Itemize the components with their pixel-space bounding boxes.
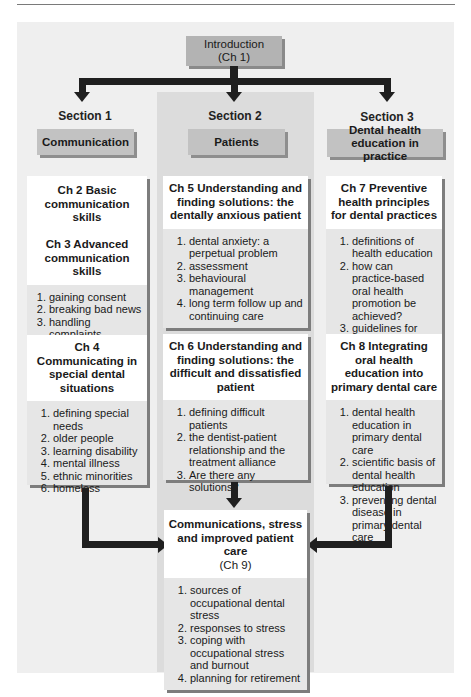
arrow-down-icon [226, 498, 242, 508]
list-item: definitions of health education [352, 235, 438, 260]
chapter-4-list: defining special needs older people lear… [27, 401, 147, 501]
list-item: ethnic minorities [53, 470, 143, 483]
chapter-9-card: Communications, stress and improved pati… [164, 510, 307, 690]
chapter-5-card: Ch 5 Understanding and finding solutions… [163, 176, 308, 328]
section-1-header: Communication [37, 129, 134, 155]
arrow-down-icon [74, 92, 90, 102]
chapter-7-title: Ch 7 Preventive health principles for de… [326, 176, 442, 229]
chapter-9-title: Communications, stress and improved pati… [169, 518, 303, 557]
arrow-down-icon [379, 92, 395, 102]
list-item: defining difficult patients [189, 406, 304, 431]
section-2-label: Section 2 [190, 109, 280, 123]
chapter-5-list: dental anxiety: a perpetual problem asse… [163, 229, 308, 329]
list-item: coping with occupational stress and burn… [190, 634, 303, 672]
list-item: dental anxiety: a perpetual problem [189, 235, 304, 260]
list-item: behavioural management [189, 272, 304, 297]
chapter-9-chapter: (Ch 9) [168, 559, 303, 573]
section-3-header: Dental health education in practice [327, 129, 443, 157]
list-item: learning disability [53, 445, 143, 458]
section-3-label: Section 3 [342, 110, 432, 124]
chapter-8-title: Ch 8 Integrating oral health education i… [326, 334, 442, 400]
chapter-4-card: Ch 4 Communicating in special dental sit… [27, 335, 147, 485]
section-2-name: Patients [214, 136, 259, 149]
arrow-down-icon [226, 92, 242, 102]
connector-s3-bottom [385, 486, 392, 548]
connector-s1-to-ch9 [82, 541, 160, 548]
chapter-4-title: Ch 4 Communicating in special dental sit… [27, 335, 147, 401]
list-item: preventing dental disease in primary den… [352, 494, 438, 544]
list-item: planning for retirement [190, 672, 303, 685]
chapter-9-list: sources of occupational dental stress re… [164, 578, 307, 690]
chapter-2-title: Ch 2 Basic communication skills [27, 176, 147, 235]
list-item: the dentist-patient relationship and the… [189, 431, 304, 469]
chapter-3-card: Ch 3 Advanced communication skills gaini… [27, 232, 147, 347]
chapter-6-card: Ch 6 Understanding and finding solutions… [163, 334, 308, 480]
list-item: long term follow up and continuing care [189, 297, 304, 322]
list-item: how can practice-based oral health promo… [352, 260, 438, 323]
intro-title: Introduction [204, 38, 264, 51]
chapter-8-list: dental health education in primary denta… [326, 400, 442, 550]
section-1-label: Section 1 [40, 109, 130, 123]
arrow-left-icon [307, 537, 317, 553]
section-2-header: Patients [188, 129, 285, 155]
list-item: mental illness [53, 457, 143, 470]
intro-chapter: (Ch 1) [218, 51, 250, 64]
section-3-name: Dental health education in practice [329, 124, 441, 163]
list-item: assessment [189, 260, 304, 273]
chapter-5-title: Ch 5 Understanding and finding solutions… [163, 176, 308, 229]
chapter-6-title: Ch 6 Understanding and finding solutions… [163, 334, 308, 400]
chapter-3-title: Ch 3 Advanced communication skills [27, 232, 147, 285]
section-1-name: Communication [42, 136, 129, 149]
list-item: Are there any solutions? [189, 469, 304, 494]
list-item: defining special needs [53, 407, 143, 432]
top-rule [17, 4, 455, 5]
list-item: older people [53, 432, 143, 445]
list-item: gaining consent [49, 291, 143, 304]
connector-s1-bottom [82, 488, 89, 548]
list-item: sources of occupational dental stress [190, 584, 303, 622]
list-item: homeless [53, 482, 143, 495]
list-item: responses to stress [190, 622, 303, 635]
list-item: breaking bad news [49, 303, 143, 316]
chapter-2-card: Ch 2 Basic communication skills [27, 176, 147, 235]
chapter-7-card: Ch 7 Preventive health principles for de… [326, 176, 442, 353]
chapter-9-header: Communications, stress and improved pati… [164, 510, 307, 578]
connector-s3-to-ch9 [316, 541, 392, 548]
intro-box: Introduction (Ch 1) [186, 36, 282, 66]
list-item: dental health education in primary denta… [352, 406, 438, 456]
list-item: scientific basis of dental health educat… [352, 456, 438, 494]
chapter-8-card: Ch 8 Integrating oral health education i… [326, 334, 442, 484]
